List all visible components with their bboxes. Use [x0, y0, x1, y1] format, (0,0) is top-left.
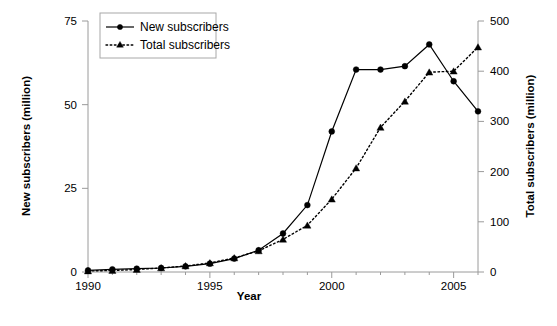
subscribers-line-chart: 0255075 0100200300400500 199019952000200… [0, 0, 557, 326]
left-tick-label: 25 [64, 182, 77, 194]
x-tick-label: 2000 [319, 280, 345, 292]
data-point-marker [304, 202, 310, 208]
legend-label-new-subscribers: New subscribers [140, 20, 229, 34]
data-point-marker [426, 42, 432, 48]
x-tick-label: 1990 [75, 280, 101, 292]
data-point-marker [402, 63, 408, 69]
data-point-marker [475, 108, 481, 114]
legend-label-total-subscribers: Total subscribers [140, 38, 230, 52]
data-point-marker [329, 129, 335, 135]
left-axis-title: New subscribers (million) [20, 76, 32, 216]
right-tick-label: 100 [490, 216, 509, 228]
right-axis-title: Total subscribers (million) [524, 74, 536, 217]
x-axis-title: Year [237, 290, 262, 302]
left-tick-label: 75 [64, 15, 77, 27]
right-tick-label: 400 [490, 65, 509, 77]
right-tick-label: 200 [490, 166, 509, 178]
data-point-marker [280, 231, 286, 237]
chart-background [0, 0, 557, 326]
data-point-marker [353, 67, 359, 73]
right-tick-label: 0 [490, 266, 496, 278]
x-tick-label: 2005 [441, 280, 467, 292]
left-tick-label: 50 [64, 99, 77, 111]
right-tick-label: 500 [490, 15, 509, 27]
x-tick-label: 1995 [197, 280, 223, 292]
chart-container: 0255075 0100200300400500 199019952000200… [0, 0, 557, 326]
left-tick-label: 0 [71, 266, 77, 278]
data-point-marker [451, 78, 457, 84]
data-point-marker [378, 67, 384, 73]
legend-marker-circle-icon [117, 24, 122, 29]
legend: New subscribers Total subscribers [100, 13, 230, 58]
right-tick-label: 300 [490, 115, 509, 127]
